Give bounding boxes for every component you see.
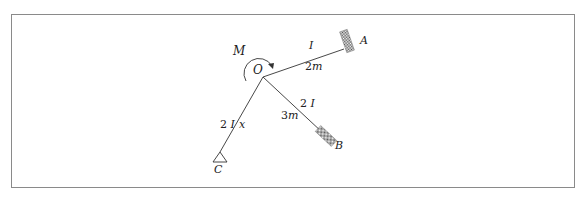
label-A: A (359, 34, 368, 47)
label-OC-length: x (239, 118, 246, 131)
member-OC (220, 77, 263, 152)
fixed-support-B-icon (315, 126, 337, 147)
label-OB-length: 3m (281, 109, 298, 122)
label-OB-stiffness-text: 2 (300, 97, 307, 110)
label-OA-length: 2m (305, 60, 322, 73)
label-C: C (214, 163, 223, 176)
label-OB-stiffness: 2 I (300, 97, 316, 110)
label-OA-length-unit: m (312, 60, 322, 73)
label-OC-stiffness: 2 I (220, 118, 236, 131)
label-B: B (334, 139, 343, 152)
label-OA-stiffness: I (308, 39, 314, 52)
label-O: O (253, 63, 263, 77)
frame-diagram: M O A B C I 2m 2 I 3m 2 I x (0, 0, 586, 198)
label-OB-length-number: 3 (281, 109, 288, 122)
label-OC-stiffness-text: 2 (220, 118, 227, 131)
label-OB-stiffness-text-symbol: I (310, 97, 316, 110)
label-OB-length-unit: m (288, 109, 298, 122)
moment-arrowhead-icon (268, 63, 274, 69)
member-OA (263, 49, 344, 77)
diagram-border (12, 15, 575, 188)
fixed-support-A-icon (340, 29, 355, 52)
label-OA-length-number: 2 (305, 60, 312, 73)
label-M: M (232, 44, 246, 58)
pin-support-C-icon (213, 152, 227, 162)
label-OC-stiffness-text-symbol: I (230, 118, 236, 131)
